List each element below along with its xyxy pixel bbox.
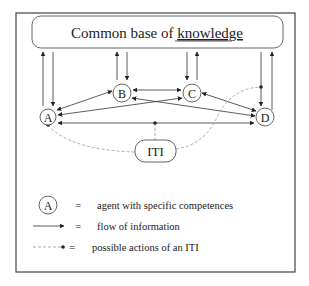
- svg-text:=: =: [75, 199, 81, 211]
- svg-text:=: =: [69, 241, 75, 253]
- legend-item-iti-action: = possible actions of an ITI: [33, 241, 199, 253]
- iti-action-dot-d: [259, 85, 263, 89]
- svg-text:=: =: [75, 220, 81, 232]
- svg-text:B: B: [118, 87, 126, 101]
- agent-node-b: B: [113, 84, 131, 102]
- legend-item-agent: A = agent with specific competences: [39, 196, 233, 214]
- svg-text:A: A: [44, 111, 53, 125]
- svg-text:agent with specific competence: agent with specific competences: [97, 200, 233, 211]
- knowledge-base-label: Common base of knowledge: [71, 25, 243, 41]
- legend-item-flow: = flow of information: [33, 220, 181, 232]
- svg-text:flow of information: flow of information: [97, 221, 181, 232]
- knowledge-base-box: Common base of knowledge: [32, 16, 283, 48]
- agent-flow-arrows: [57, 90, 256, 123]
- diagram-canvas: Common base of knowledge A: [0, 0, 309, 286]
- legend: A = agent with specific competences = fl…: [33, 196, 233, 253]
- svg-text:C: C: [188, 87, 196, 101]
- svg-text:D: D: [261, 111, 270, 125]
- iti-box: ITI: [135, 140, 176, 162]
- iti-action-dots: [46, 85, 263, 127]
- agent-node-a: A: [40, 109, 56, 125]
- agent-node-d: D: [256, 108, 274, 126]
- agent-node-c: C: [183, 84, 201, 102]
- svg-text:possible actions of an ITI: possible actions of an ITI: [92, 242, 199, 253]
- iti-action-dot-ad: [153, 121, 157, 125]
- legend-dot-icon: [61, 245, 65, 249]
- svg-text:ITI: ITI: [147, 144, 164, 159]
- svg-text:A: A: [44, 199, 53, 213]
